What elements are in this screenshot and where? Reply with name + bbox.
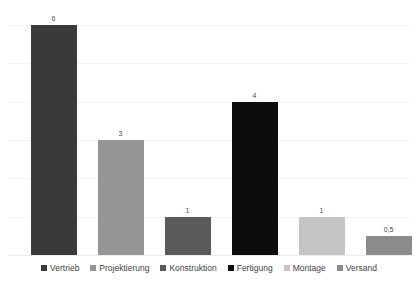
- bar-value-label: 1: [299, 206, 345, 215]
- bar-group: 4: [232, 25, 278, 255]
- legend-label: Konstruktion: [169, 263, 216, 273]
- legend-label: Fertigung: [237, 263, 273, 273]
- bar-group: 0,5: [366, 25, 412, 255]
- legend-label: Vertrieb: [50, 263, 79, 273]
- bar-group: 3: [98, 25, 144, 255]
- bar-vertrieb[interactable]: [31, 25, 77, 255]
- legend-label: Versand: [346, 263, 377, 273]
- bar-value-label: 1: [165, 206, 211, 215]
- legend-swatch-icon: [160, 265, 166, 271]
- chart-legend: VertriebProjektierungKonstruktionFertigu…: [0, 263, 418, 273]
- legend-swatch-icon: [90, 265, 96, 271]
- bar-montage[interactable]: [299, 217, 345, 255]
- legend-item-konstruktion[interactable]: Konstruktion: [160, 263, 216, 273]
- bar-chart: 631410,5 VertriebProjektierungKonstrukti…: [0, 0, 418, 290]
- plot-area: 631410,5: [8, 25, 410, 255]
- bar-versand[interactable]: [366, 236, 412, 255]
- legend-swatch-icon: [337, 265, 343, 271]
- legend-item-projektierung[interactable]: Projektierung: [90, 263, 149, 273]
- legend-swatch-icon: [41, 265, 47, 271]
- bar-fertigung[interactable]: [232, 102, 278, 255]
- legend-swatch-icon: [228, 265, 234, 271]
- bar-konstruktion[interactable]: [165, 217, 211, 255]
- legend-item-montage[interactable]: Montage: [284, 263, 326, 273]
- bar-projektierung[interactable]: [98, 140, 144, 255]
- bar-group: 1: [299, 25, 345, 255]
- legend-item-fertigung[interactable]: Fertigung: [228, 263, 273, 273]
- bar-value-label: 6: [31, 14, 77, 23]
- legend-item-vertrieb[interactable]: Vertrieb: [41, 263, 79, 273]
- legend-item-versand[interactable]: Versand: [337, 263, 377, 273]
- bar-group: 1: [165, 25, 211, 255]
- bar-value-label: 0,5: [366, 225, 412, 234]
- bars-layer: 631410,5: [8, 25, 410, 255]
- legend-label: Montage: [293, 263, 326, 273]
- legend-label: Projektierung: [99, 263, 149, 273]
- bar-group: 6: [31, 25, 77, 255]
- bar-value-label: 3: [98, 129, 144, 138]
- bar-value-label: 4: [232, 91, 278, 100]
- axis-baseline: [8, 255, 410, 256]
- legend-swatch-icon: [284, 265, 290, 271]
